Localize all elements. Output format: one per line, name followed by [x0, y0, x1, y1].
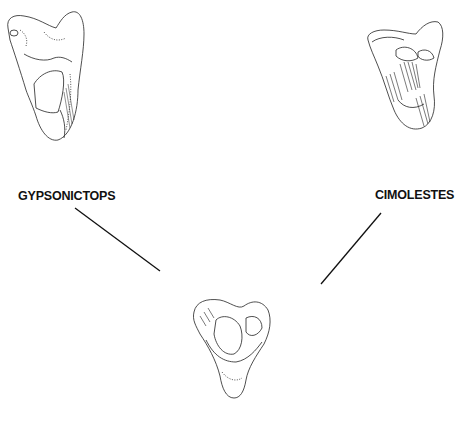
taxon-label-gypsonictops: GYPSONICTOPS	[18, 189, 115, 203]
connector-cimolestes	[321, 213, 381, 284]
taxon-label-cimolestes: CIMOLESTES	[375, 188, 454, 202]
connector-gypsonictops	[75, 208, 160, 271]
cimolestes-tooth-drawing	[368, 22, 443, 129]
gypsonictops-tooth-drawing	[8, 12, 84, 140]
phylogeny-diagram: GYPSONICTOPS CIMOLESTES	[0, 0, 459, 429]
ancestral-tooth-drawing	[193, 300, 270, 399]
